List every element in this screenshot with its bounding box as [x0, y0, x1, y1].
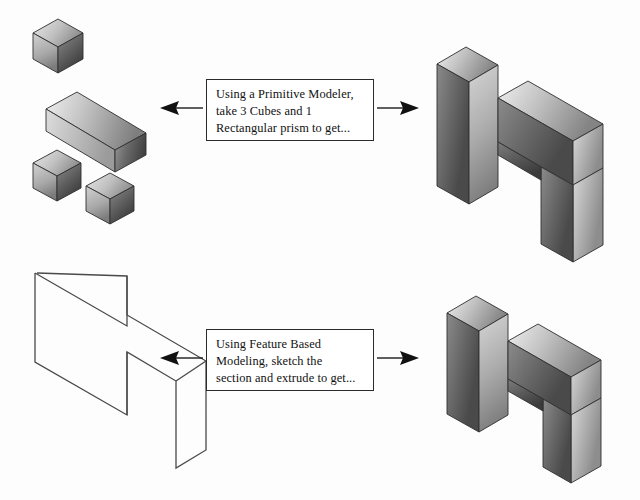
cube-2 [33, 150, 81, 201]
cube-1 [33, 19, 83, 73]
diagram-canvas [0, 0, 640, 500]
arrow-top-right [377, 101, 419, 115]
diagram-page: Using a Primitive Modeler, take 3 Cubes … [0, 0, 640, 500]
callout-primitive-modeling: Using a Primitive Modeler, take 3 Cubes … [206, 79, 374, 141]
sketch-profile-outline [35, 273, 206, 468]
callout-feature-line-1: Using Feature Based [216, 336, 365, 353]
arrow-bottom-left [160, 351, 203, 365]
callout-primitive-line-3: Rectangular prism to get... [216, 120, 365, 137]
solid-h-assembled [437, 47, 603, 262]
cube-3 [86, 173, 134, 224]
callout-primitive-line-1: Using a Primitive Modeler, [216, 86, 365, 103]
callout-primitive-line-2: take 3 Cubes and 1 [216, 103, 365, 120]
arrow-top-left [160, 101, 203, 115]
callout-feature-line-2: Modeling, sketch the [216, 353, 365, 370]
arrow-bottom-right [377, 351, 419, 365]
solid-h-extruded [447, 296, 601, 483]
callout-feature-based-modeling: Using Feature Based Modeling, sketch the… [206, 329, 374, 391]
primitive-shapes-group [33, 19, 146, 224]
callout-feature-line-3: section and extrude to get... [216, 370, 365, 387]
